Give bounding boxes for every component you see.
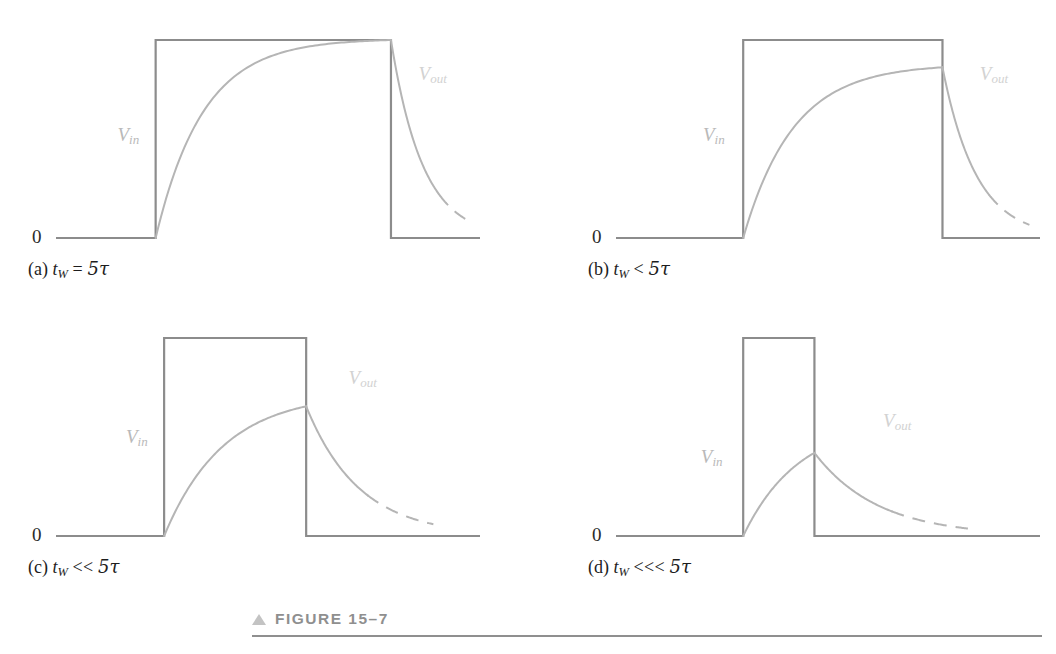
zero-axis-label-a: 0 [32,227,42,246]
output-charge-curve-b [743,67,942,238]
caption-value: 5τ [98,556,119,577]
vin-label-a: Vin [117,125,139,146]
caption-operator: < [633,259,644,279]
caption-operator: << [72,557,93,577]
output-charge-curve-a [156,40,391,238]
waveform-panel-a: 0VinVout(a) tW = 5τ [8,10,508,300]
vin-label-c: Vin [126,427,148,448]
figure-divider [252,635,1042,637]
zero-axis-label-d: 0 [592,525,602,544]
caption-subscript: W [58,565,68,579]
input-pulse-trace-c [56,338,480,536]
caption-operator: <<< [633,557,665,577]
zero-axis-label-c: 0 [32,525,42,544]
waveform-svg-b [568,10,1056,300]
output-decay-curve-b [942,67,989,195]
output-charge-curve-d [743,453,814,536]
vout-subscript: out [360,374,377,389]
vout-subscript: out [430,71,447,86]
figure-caption-row: FIGURE 15–7 [252,608,1042,630]
waveform-panel-c: 0VinVout(c) tW << 5τ [8,308,508,598]
vout-symbol: V [883,410,895,431]
vout-symbol: V [419,63,431,84]
caption-subscript: W [619,565,629,579]
caption-value: 5τ [670,556,691,577]
caption-prefix: (a) [28,259,48,279]
vout-symbol: V [349,367,361,388]
vin-symbol: V [701,446,713,467]
vin-subscript: in [712,454,722,469]
caption-value: 5τ [649,258,670,279]
panel-caption-d: (d) tW <<< 5τ [588,558,691,579]
output-decay-dashed-tail-a [440,195,470,221]
output-charge-curve-c [164,406,306,536]
waveform-panel-b: 0VinVout(b) tW < 5τ [568,10,1056,300]
output-decay-curve-d [814,453,891,511]
waveform-svg-a [8,10,508,300]
output-decay-curve-c [306,406,367,495]
caption-operator: = [72,259,83,279]
vout-label-c: Vout [349,368,377,389]
vin-symbol: V [703,124,715,145]
vin-subscript: in [129,132,139,147]
output-decay-dashed-tail-b [989,195,1029,225]
panel-caption-b: (b) tW < 5τ [588,260,670,281]
output-decay-dashed-tail-c [368,495,434,524]
vin-label-b: Vin [703,125,725,146]
vout-label-b: Vout [980,64,1008,85]
vin-label-d: Vin [701,447,723,468]
output-decay-dashed-tail-d [892,511,968,528]
input-pulse-trace-b [616,40,1040,238]
vin-symbol: V [126,426,138,447]
vin-subscript: in [138,434,148,449]
vout-label-d: Vout [883,411,911,432]
caption-value: 5τ [87,258,108,279]
vout-symbol: V [980,63,992,84]
zero-axis-label-b: 0 [592,227,602,246]
panel-caption-c: (c) tW << 5τ [28,558,119,579]
caption-prefix: (d) [588,557,609,577]
figure-number-label: FIGURE 15–7 [275,610,389,628]
panel-caption-a: (a) tW = 5τ [28,260,109,281]
caption-subscript: W [619,267,629,281]
vout-label-a: Vout [419,64,447,85]
waveform-svg-d [568,308,1056,598]
figure-15-7: 0VinVout(a) tW = 5τ 0VinVout(b) tW < 5τ … [0,0,1056,654]
vout-subscript: out [991,71,1008,86]
waveform-svg-c [8,308,508,598]
triangle-up-icon [252,614,266,625]
vin-symbol: V [117,124,129,145]
caption-prefix: (c) [28,557,48,577]
waveform-panel-d: 0VinVout(d) tW <<< 5τ [568,308,1056,598]
caption-prefix: (b) [588,259,609,279]
vout-subscript: out [895,418,912,433]
input-pulse-trace-d [616,338,1040,536]
vin-subscript: in [715,132,725,147]
figure-footer: FIGURE 15–7 [252,608,1042,637]
caption-subscript: W [58,267,68,281]
